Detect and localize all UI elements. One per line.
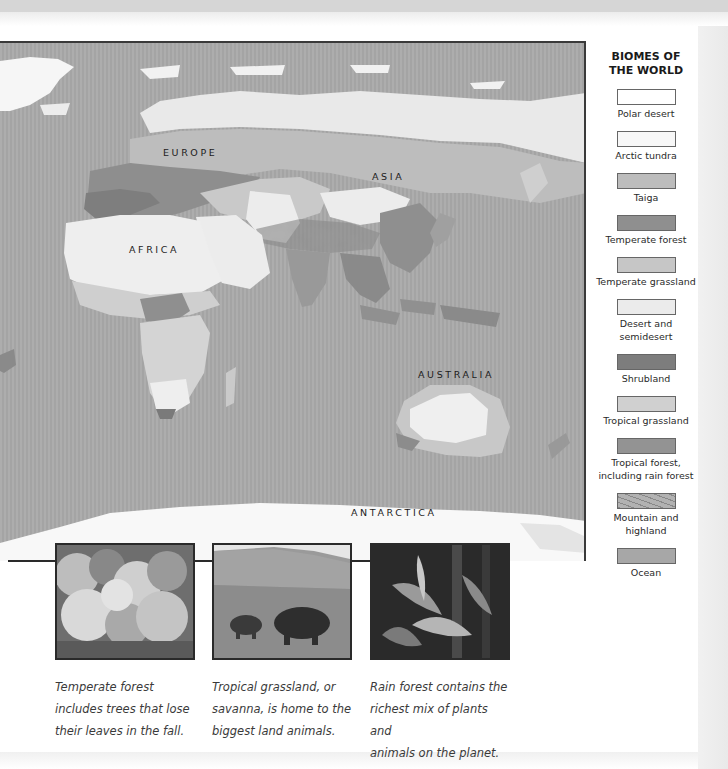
new-zealand <box>548 433 570 459</box>
swatch-desert <box>617 299 676 315</box>
page-bottom-shadow <box>0 752 698 769</box>
label-africa: AFRICA <box>129 244 179 255</box>
legend-item-tropical-forest: Tropical forest, including rain forest <box>598 438 694 482</box>
legend-item-temperate-forest: Temperate forest <box>598 215 694 246</box>
legend-item-ocean: Ocean <box>598 548 694 579</box>
page-top-shadow <box>0 12 728 26</box>
swatch-shrubland <box>617 354 676 370</box>
biome-legend: BIOMES OF THE WORLD Polar desert Arctic … <box>598 46 694 590</box>
legend-item-mountain: Mountain and highland <box>598 493 694 537</box>
legend-item-tropical-grassland: Tropical grassland <box>598 396 694 427</box>
swatch-temperate-forest <box>617 215 676 231</box>
caption-rain-forest: Rain forest contains the richest mix of … <box>370 676 510 764</box>
label-australia: AUSTRALIA <box>418 369 494 380</box>
swatch-mountain <box>617 493 676 509</box>
legend-item-arctic-tundra: Arctic tundra <box>598 131 694 162</box>
india <box>286 249 330 307</box>
biomes-world-map: EUROPE ASIA AFRICA AUSTRALIA ANTARCTICA <box>0 41 586 561</box>
caption-savanna: Tropical grassland, or savanna, is home … <box>212 676 352 742</box>
swatch-tropical-forest <box>617 438 676 454</box>
east-asia-forest <box>380 203 440 273</box>
photo-savanna-elephants <box>212 543 352 660</box>
se-asia <box>340 253 390 303</box>
legend-title: BIOMES OF THE WORLD <box>598 50 694 78</box>
swatch-polar-desert <box>617 89 676 105</box>
caption-temperate-forest: Temperate forest includes trees that los… <box>55 676 195 742</box>
page-top-strip <box>0 0 728 12</box>
swatch-arctic-tundra <box>617 131 676 147</box>
swatch-taiga <box>617 173 676 189</box>
swatch-ocean <box>617 548 676 564</box>
legend-item-polar-desert: Polar desert <box>598 89 694 120</box>
photo-rain-forest <box>370 543 510 660</box>
madagascar <box>226 367 236 407</box>
legend-item-shrubland: Shrubland <box>598 354 694 385</box>
map-landmasses <box>0 43 586 561</box>
label-europe: EUROPE <box>163 147 217 158</box>
legend-item-taiga: Taiga <box>598 173 694 204</box>
legend-item-desert: Desert and semidesert <box>598 299 694 343</box>
africa-desert <box>64 215 222 295</box>
greenland <box>0 57 74 111</box>
legend-item-temperate-grassland: Temperate grassland <box>598 257 694 288</box>
swatch-tropical-grassland <box>617 396 676 412</box>
swatch-temperate-grassland <box>617 257 676 273</box>
label-asia: ASIA <box>372 171 404 182</box>
page-edge-band <box>698 26 728 769</box>
photo-temperate-forest <box>55 543 195 660</box>
label-antarctica: ANTARCTICA <box>351 507 437 518</box>
